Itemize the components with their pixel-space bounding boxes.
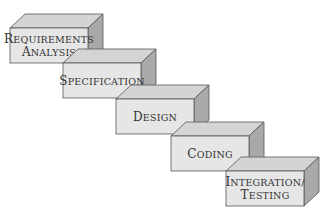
step-label-line: ANALYSIS	[21, 45, 76, 59]
step-box-top-face	[63, 49, 156, 63]
step-label-line: CODING	[187, 147, 232, 161]
step-box-top-face	[116, 85, 209, 99]
step-label-line: TESTING	[241, 188, 290, 202]
step-box-5: INTEGRATION/TESTING	[225, 157, 319, 206]
step-label-line: DESIGN	[133, 110, 177, 124]
step-box-top-face	[226, 157, 319, 171]
step-label-line: REQUIREMENTS	[4, 32, 94, 46]
step-label-line: INTEGRATION/	[225, 175, 305, 189]
step-box-top-face	[171, 122, 264, 136]
waterfall-diagram: REQUIREMENTSANALYSISSPECIFICATIONDESIGNC…	[0, 0, 330, 218]
step-box-top-face	[10, 14, 103, 28]
